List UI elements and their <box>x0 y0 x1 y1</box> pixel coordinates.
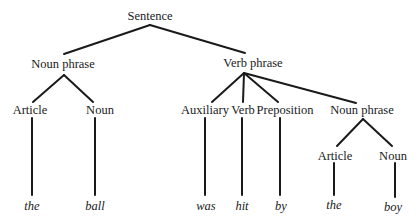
node-article-1: Article <box>13 103 48 117</box>
leaf-by: by <box>275 199 287 213</box>
edge-vp-verb <box>243 73 244 102</box>
node-noun-phrase-1: Noun phrase <box>31 57 95 71</box>
node-sentence: Sentence <box>127 9 172 23</box>
leaf-hit: hit <box>235 199 248 213</box>
leaf-the-2: the <box>326 198 341 212</box>
leaf-ball: ball <box>85 199 104 213</box>
node-verb: Verb <box>231 103 255 117</box>
node-noun-phrase-2: Noun phrase <box>330 103 394 117</box>
edge-sentence-vp <box>150 25 245 53</box>
edge-np2-noun <box>363 119 392 146</box>
node-article-2: Article <box>318 149 353 163</box>
leaf-was: was <box>196 199 215 213</box>
leaf-the-1: the <box>24 199 39 213</box>
node-preposition: Preposition <box>257 103 314 117</box>
edge-np2-article <box>337 119 363 146</box>
leaf-boy: boy <box>384 200 402 214</box>
node-verb-phrase: Verb phrase <box>223 56 282 70</box>
node-auxiliary: Auxiliary <box>181 103 229 117</box>
edge-sentence-np1 <box>64 25 150 54</box>
node-noun-2: Noun <box>379 149 407 163</box>
edge-vp-auxiliary <box>212 73 244 102</box>
edge-np1-article <box>33 75 64 102</box>
node-noun-1: Noun <box>86 103 114 117</box>
edge-np1-noun <box>64 75 93 102</box>
